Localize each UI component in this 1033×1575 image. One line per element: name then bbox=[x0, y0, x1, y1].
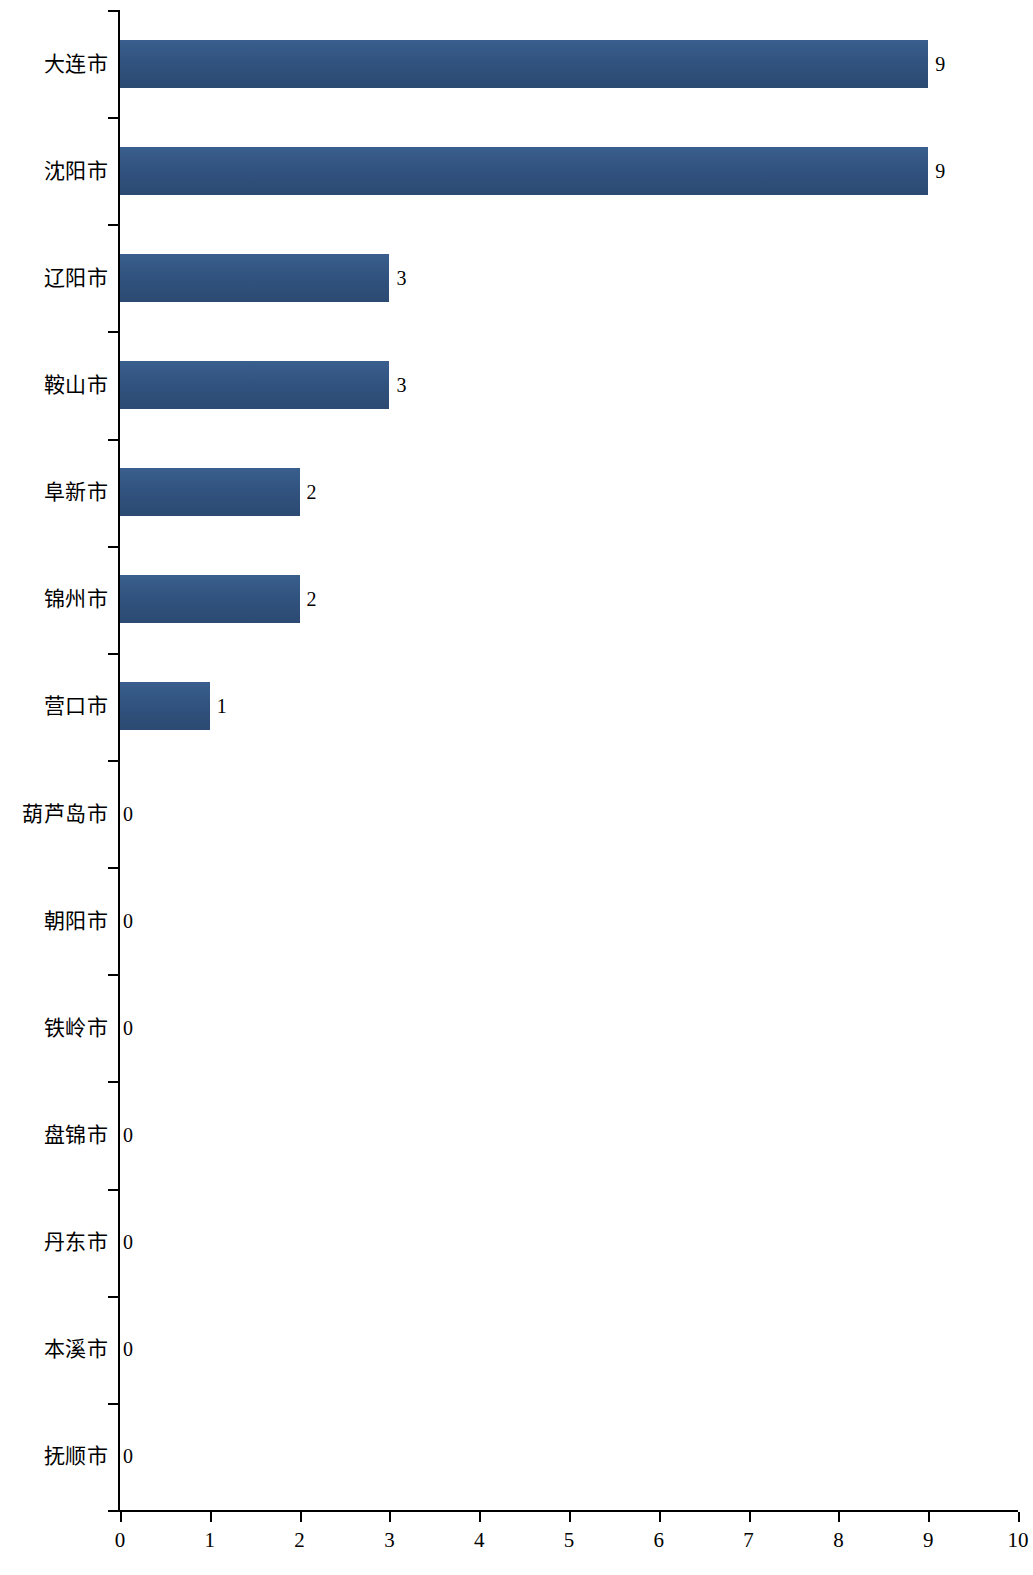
bar-value-label: 1 bbox=[217, 696, 227, 716]
x-axis-tick-label: 1 bbox=[190, 1528, 230, 1553]
y-axis-tick-label: 锦州市 bbox=[0, 587, 108, 611]
bar-group: 1 bbox=[120, 682, 227, 730]
bar-group: 3 bbox=[120, 254, 406, 302]
table-row: 大连市9 bbox=[0, 10, 1025, 117]
bar-value-label: 0 bbox=[123, 1018, 133, 1038]
bar-value-label: 3 bbox=[396, 375, 406, 395]
x-axis-tick-label: 5 bbox=[549, 1528, 589, 1553]
x-axis-tick-label: 10 bbox=[998, 1528, 1033, 1553]
bar-group: 3 bbox=[120, 361, 406, 409]
y-axis-tick-label: 营口市 bbox=[0, 694, 108, 718]
y-axis-tick-label: 盘锦市 bbox=[0, 1123, 108, 1147]
bar-group: 2 bbox=[120, 468, 317, 516]
table-row: 抚顺市0 bbox=[0, 1403, 1025, 1510]
y-axis-tick-mark bbox=[108, 653, 118, 655]
y-axis-tick-mark bbox=[108, 1403, 118, 1405]
x-axis-line bbox=[118, 1510, 1018, 1512]
y-axis-tick-mark bbox=[108, 974, 118, 976]
bar-value-label: 0 bbox=[123, 911, 133, 931]
table-row: 营口市1 bbox=[0, 653, 1025, 760]
table-row: 本溪市0 bbox=[0, 1296, 1025, 1403]
x-axis-tick-label: 8 bbox=[818, 1528, 858, 1553]
y-axis-tick-mark bbox=[108, 439, 118, 441]
table-row: 盘锦市0 bbox=[0, 1081, 1025, 1188]
y-axis-tick-mark bbox=[108, 331, 118, 333]
bar-group: 0 bbox=[120, 1218, 133, 1266]
x-axis-tick-mark bbox=[569, 1512, 571, 1522]
y-axis-tick-label: 沈阳市 bbox=[0, 159, 108, 183]
bar-value-label: 0 bbox=[123, 1125, 133, 1145]
bar-group: 9 bbox=[120, 147, 945, 195]
x-axis-tick-label: 9 bbox=[908, 1528, 948, 1553]
table-row: 辽阳市3 bbox=[0, 224, 1025, 331]
y-axis-tick-mark bbox=[108, 867, 118, 869]
bar-value-label: 0 bbox=[123, 804, 133, 824]
x-axis-tick-mark bbox=[749, 1512, 751, 1522]
bar-group: 0 bbox=[120, 790, 133, 838]
bar bbox=[120, 361, 389, 409]
bar bbox=[120, 254, 389, 302]
bar-group: 0 bbox=[120, 1432, 133, 1480]
bar-value-label: 0 bbox=[123, 1339, 133, 1359]
y-axis-tick-label: 阜新市 bbox=[0, 480, 108, 504]
y-axis-tick-label: 抚顺市 bbox=[0, 1444, 108, 1468]
bar-value-label: 2 bbox=[307, 589, 317, 609]
y-axis-tick-mark bbox=[108, 1081, 118, 1083]
bar-value-label: 3 bbox=[396, 268, 406, 288]
x-axis-tick-label: 6 bbox=[639, 1528, 679, 1553]
table-row: 鞍山市3 bbox=[0, 331, 1025, 438]
y-axis-tick-label: 葫芦岛市 bbox=[0, 802, 108, 826]
y-axis-tick-label: 铁岭市 bbox=[0, 1016, 108, 1040]
x-axis-tick-mark bbox=[300, 1512, 302, 1522]
x-axis-tick-label: 4 bbox=[459, 1528, 499, 1553]
y-axis-tick-mark bbox=[108, 1189, 118, 1191]
table-row: 锦州市2 bbox=[0, 546, 1025, 653]
table-row: 阜新市2 bbox=[0, 439, 1025, 546]
x-axis-tick-mark bbox=[1018, 1512, 1020, 1522]
bar-value-label: 0 bbox=[123, 1446, 133, 1466]
bar-value-label: 0 bbox=[123, 1232, 133, 1252]
table-row: 葫芦岛市0 bbox=[0, 760, 1025, 867]
bar bbox=[120, 40, 928, 88]
x-axis-tick-label: 3 bbox=[369, 1528, 409, 1553]
y-axis-tick-label: 辽阳市 bbox=[0, 266, 108, 290]
bar bbox=[120, 575, 300, 623]
y-axis-tick-mark bbox=[108, 117, 118, 119]
x-axis-tick-mark bbox=[479, 1512, 481, 1522]
table-row: 沈阳市9 bbox=[0, 117, 1025, 224]
x-axis-tick-mark bbox=[389, 1512, 391, 1522]
x-axis-tick-label: 2 bbox=[280, 1528, 320, 1553]
x-axis-tick-mark bbox=[120, 1512, 122, 1522]
bar-value-label: 9 bbox=[935, 161, 945, 181]
y-axis-tick-label: 鞍山市 bbox=[0, 373, 108, 397]
bar bbox=[120, 147, 928, 195]
y-axis-tick-mark bbox=[108, 546, 118, 548]
table-row: 丹东市0 bbox=[0, 1189, 1025, 1296]
bar-group: 2 bbox=[120, 575, 317, 623]
x-axis-tick-mark bbox=[928, 1512, 930, 1522]
bar-group: 0 bbox=[120, 897, 133, 945]
x-axis-tick-label: 7 bbox=[729, 1528, 769, 1553]
x-axis-tick-mark bbox=[210, 1512, 212, 1522]
x-axis-tick-label: 0 bbox=[100, 1528, 140, 1553]
bar-group: 0 bbox=[120, 1325, 133, 1373]
bar-value-label: 2 bbox=[307, 482, 317, 502]
y-axis-tick-label: 丹东市 bbox=[0, 1230, 108, 1254]
y-axis-tick-label: 本溪市 bbox=[0, 1337, 108, 1361]
x-axis-tick-mark bbox=[659, 1512, 661, 1522]
y-axis-tick-label: 朝阳市 bbox=[0, 909, 108, 933]
bar-value-label: 9 bbox=[935, 54, 945, 74]
y-axis-tick-mark bbox=[108, 1510, 118, 1512]
bar bbox=[120, 468, 300, 516]
x-axis-tick-mark bbox=[838, 1512, 840, 1522]
table-row: 朝阳市0 bbox=[0, 867, 1025, 974]
y-axis-tick-label: 大连市 bbox=[0, 52, 108, 76]
y-axis-tick-mark bbox=[108, 10, 118, 12]
table-row: 铁岭市0 bbox=[0, 974, 1025, 1081]
bar-group: 0 bbox=[120, 1111, 133, 1159]
bar-group: 0 bbox=[120, 1004, 133, 1052]
bar-group: 9 bbox=[120, 40, 945, 88]
y-axis-tick-mark bbox=[108, 1296, 118, 1298]
bar bbox=[120, 682, 210, 730]
